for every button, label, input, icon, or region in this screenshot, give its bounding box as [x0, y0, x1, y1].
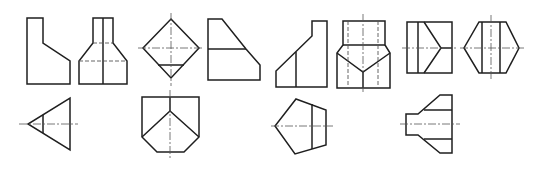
view-pentagon	[271, 99, 333, 154]
view-chevron-rect	[402, 22, 458, 73]
view-stepped-ramp	[276, 21, 327, 87]
view-hexagon	[460, 15, 525, 80]
orthographic-projection-drawing	[0, 0, 549, 170]
view-chamfered-side	[208, 19, 260, 80]
view-triangle	[19, 98, 78, 150]
view-v-notch-front	[337, 14, 390, 92]
view-flanged-nozzle	[400, 95, 460, 153]
view-tapered-front	[79, 18, 127, 84]
view-diamond-top	[138, 13, 204, 86]
view-stepped-profile	[27, 18, 70, 84]
view-pointed-shield	[142, 90, 199, 160]
